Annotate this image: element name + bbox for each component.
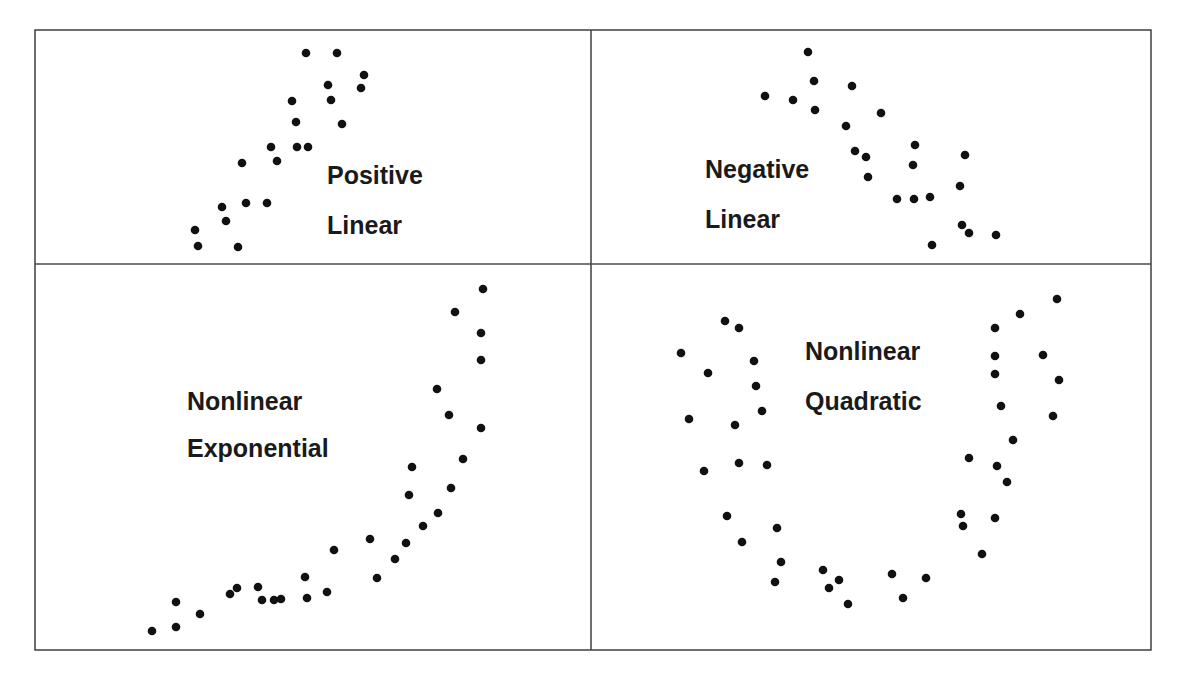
data-point: [958, 221, 967, 230]
data-point: [926, 193, 935, 202]
data-point: [763, 461, 772, 470]
data-point: [752, 382, 761, 391]
data-point: [819, 566, 828, 575]
data-point: [991, 514, 1000, 523]
data-point: [825, 584, 834, 593]
data-point: [844, 600, 853, 609]
data-point: [810, 77, 819, 86]
data-point: [242, 199, 251, 208]
data-point: [1055, 376, 1064, 385]
data-point: [330, 546, 339, 555]
data-point: [301, 573, 310, 582]
data-point: [758, 407, 767, 416]
data-point: [851, 147, 860, 156]
data-point: [273, 157, 282, 166]
data-point: [226, 590, 235, 599]
data-point: [402, 539, 411, 548]
nonlinear-quadratic-label-line1: Nonlinear: [805, 337, 921, 365]
panel-negative-linear: Negative Linear: [705, 48, 1000, 250]
data-point: [292, 118, 301, 127]
panel-nonlinear-quadratic: Nonlinear Quadratic: [677, 295, 1064, 609]
data-point: [148, 627, 157, 636]
data-point: [835, 576, 844, 585]
positive-linear-label-line1: Positive: [327, 161, 423, 189]
data-point: [459, 455, 468, 464]
data-point: [804, 48, 813, 57]
data-point: [288, 97, 297, 106]
data-point: [433, 385, 442, 394]
data-point: [773, 524, 782, 533]
data-point: [956, 182, 965, 191]
data-point: [721, 317, 730, 326]
data-point: [864, 173, 873, 182]
data-point: [196, 610, 205, 619]
data-point: [991, 370, 1000, 379]
data-point: [304, 143, 313, 152]
data-point: [993, 462, 1002, 471]
data-point: [761, 92, 770, 101]
data-point: [366, 535, 375, 544]
data-point: [263, 199, 272, 208]
data-point: [731, 421, 740, 430]
data-point: [357, 84, 366, 93]
data-point: [848, 82, 857, 91]
panel-nonlinear-exponential: Nonlinear Exponential: [148, 285, 488, 636]
data-point: [254, 583, 263, 592]
data-point: [191, 226, 200, 235]
data-point: [1049, 412, 1058, 421]
data-point: [842, 122, 851, 131]
data-point: [419, 522, 428, 531]
data-point: [1053, 295, 1062, 304]
data-point: [324, 81, 333, 90]
data-point: [961, 151, 970, 160]
data-point: [677, 349, 686, 358]
data-point: [477, 329, 486, 338]
data-point: [992, 231, 1001, 240]
data-point: [704, 369, 713, 378]
data-point: [1039, 351, 1048, 360]
panel-positive-linear: Positive Linear: [191, 49, 423, 252]
data-point: [303, 594, 312, 603]
data-point: [685, 415, 694, 424]
data-point: [723, 512, 732, 521]
data-point: [445, 411, 454, 420]
data-point: [327, 96, 336, 105]
data-point: [1003, 478, 1012, 487]
data-point: [338, 120, 347, 129]
data-point: [408, 463, 417, 472]
data-point: [451, 308, 460, 317]
data-point: [391, 555, 400, 564]
data-point: [258, 596, 267, 605]
data-point: [862, 153, 871, 162]
data-point: [965, 229, 974, 238]
data-point: [360, 71, 369, 80]
data-point: [893, 195, 902, 204]
data-point: [434, 509, 443, 518]
negative-linear-points: [761, 48, 1001, 250]
nonlinear-quadratic-label-line2: Quadratic: [805, 387, 922, 415]
data-point: [1009, 436, 1018, 445]
data-point: [735, 324, 744, 333]
data-point: [479, 285, 488, 294]
nonlinear-exponential-label-line1: Nonlinear: [187, 387, 303, 415]
data-point: [888, 570, 897, 579]
data-point: [447, 484, 456, 493]
data-point: [333, 49, 342, 58]
data-point: [991, 352, 1000, 361]
data-point: [928, 241, 937, 250]
data-point: [965, 454, 974, 463]
data-point: [991, 324, 1000, 333]
data-point: [172, 598, 181, 607]
data-point: [172, 623, 181, 632]
data-point: [218, 203, 227, 212]
data-point: [911, 141, 920, 150]
data-point: [233, 584, 242, 593]
negative-linear-label-line2: Linear: [705, 205, 780, 233]
data-point: [978, 550, 987, 559]
data-point: [877, 109, 886, 118]
data-point: [957, 510, 966, 519]
data-point: [293, 143, 302, 152]
positive-linear-label-line2: Linear: [327, 211, 402, 239]
data-point: [997, 402, 1006, 411]
data-point: [323, 588, 332, 597]
